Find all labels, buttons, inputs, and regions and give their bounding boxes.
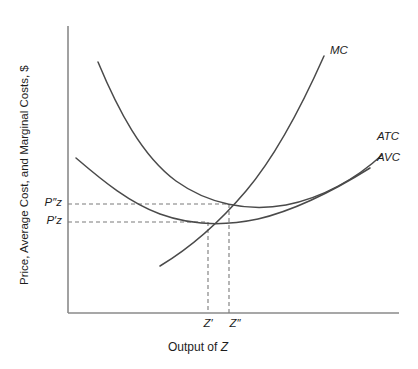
cost-curve-figure: Price, Average Cost, and Marginal Costs,… <box>0 0 418 369</box>
price-tick-label-high: P″z <box>16 197 62 209</box>
mc-curve-label: MC <box>330 45 348 57</box>
mc-curve <box>160 56 324 266</box>
x-axis-label-text: Output of <box>168 340 221 354</box>
y-axis-label: Price, Average Cost, and Marginal Costs,… <box>19 25 31 285</box>
quantity-tick-label-high: Z″ <box>222 318 248 330</box>
price-tick-label-low: P′z <box>16 215 62 227</box>
avc-curve <box>76 158 370 223</box>
atc-curve-label: ATC <box>377 131 399 143</box>
quantity-tick-label-low: Z′ <box>196 318 220 330</box>
x-axis-label: Output of Z <box>168 341 228 353</box>
x-axis-label-variable: Z <box>221 340 228 354</box>
atc-curve <box>98 62 382 207</box>
avc-curve-label: AVC <box>377 152 400 164</box>
plot-area <box>0 0 418 369</box>
